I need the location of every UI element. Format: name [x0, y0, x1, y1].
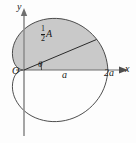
- region-area-label: 1 2 A: [41, 25, 52, 43]
- y-axis-label: y: [17, 2, 21, 12]
- cardioid-figure: y x O a 2a θ 1 2 A: [0, 0, 136, 143]
- figure-canvas: [0, 0, 136, 143]
- one-half-fraction: 1 2: [41, 25, 45, 43]
- x-tick-label-2a: 2a: [104, 68, 114, 78]
- fraction-numerator: 1: [41, 25, 45, 33]
- y-axis-arrowhead: [21, 8, 27, 16]
- x-axis-label: x: [125, 64, 129, 74]
- area-symbol: A: [46, 29, 52, 39]
- origin-label: O: [12, 66, 19, 76]
- angle-label-theta: θ: [38, 60, 42, 69]
- cardioid-lower-outline: [12, 70, 107, 122]
- fraction-denominator: 2: [41, 35, 45, 43]
- shaded-half-region: [12, 18, 107, 70]
- x-tick-label-a: a: [62, 70, 67, 80]
